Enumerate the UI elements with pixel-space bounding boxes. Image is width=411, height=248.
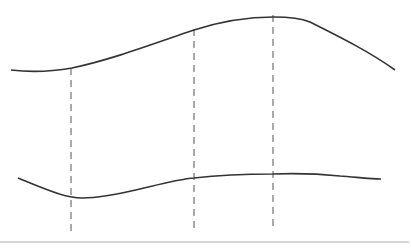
upper-curve [11, 17, 395, 71]
diagram-canvas [0, 0, 411, 248]
lower-curve [18, 174, 381, 198]
guide-lines [71, 15, 273, 231]
